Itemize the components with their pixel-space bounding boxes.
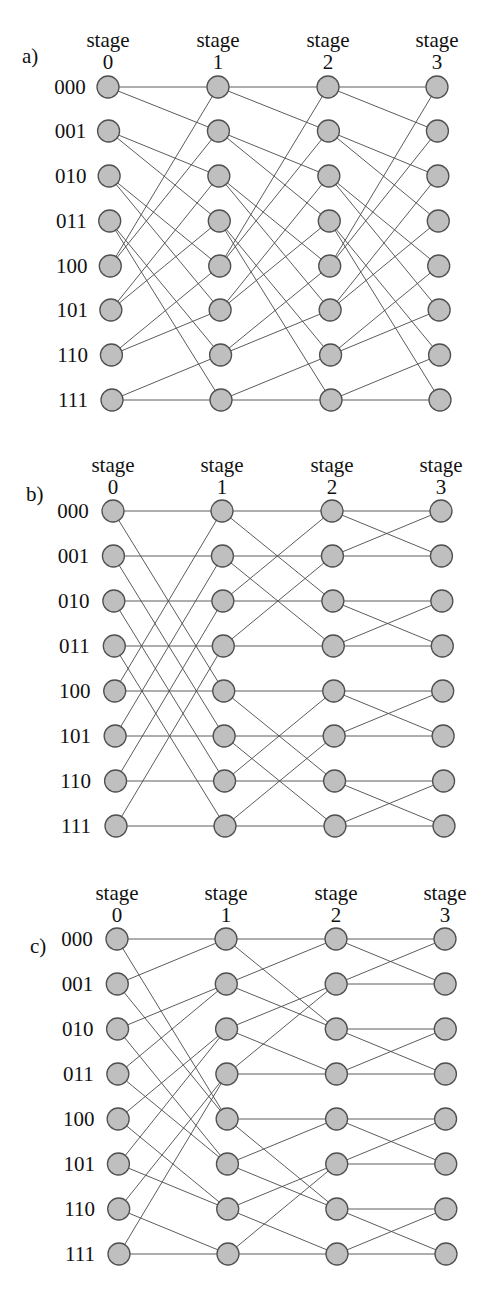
row-label: 101 xyxy=(56,298,88,322)
stage-header-number: 3 xyxy=(432,50,443,74)
switch-node-circle-icon xyxy=(326,1243,348,1265)
switch-node-circle-icon xyxy=(435,1198,457,1220)
switch-node-circle-icon xyxy=(105,815,127,837)
switch-node-circle-icon xyxy=(434,928,456,950)
stage-header-word: stage xyxy=(314,881,357,905)
edge-line xyxy=(227,1119,336,1164)
switch-node-circle-icon xyxy=(214,770,236,792)
switch-node-circle-icon xyxy=(435,1153,457,1175)
edge-line xyxy=(118,1164,227,1209)
stage-header-word: stage xyxy=(196,28,239,52)
stage-header-word: stage xyxy=(419,453,462,477)
switch-node-circle-icon xyxy=(104,725,126,747)
edge-line xyxy=(330,131,438,266)
row-label: 111 xyxy=(61,814,91,838)
switch-node-circle-icon xyxy=(104,680,126,702)
edges xyxy=(108,87,440,400)
row-label: 001 xyxy=(62,972,94,996)
edge-line xyxy=(226,939,336,1029)
switch-node-circle-icon xyxy=(428,255,450,277)
edge-line xyxy=(118,1029,226,1119)
switch-node-circle-icon xyxy=(318,210,340,232)
stage-header-word: stage xyxy=(415,28,458,52)
edge-line xyxy=(219,221,330,355)
stage-header-number: 2 xyxy=(327,475,338,499)
switch-node-circle-icon xyxy=(432,725,454,747)
row-label: 101 xyxy=(59,724,91,748)
edge-line xyxy=(119,1074,227,1209)
edge-line xyxy=(117,984,227,1119)
panel-b-butterfly-network: b)stage0stage1stage2stage300000101001110… xyxy=(26,453,463,838)
switch-node-circle-icon xyxy=(214,815,236,837)
switch-node-circle-icon xyxy=(213,680,235,702)
nodes xyxy=(106,928,457,1265)
edge-line xyxy=(118,984,227,1029)
switch-node-circle-icon xyxy=(108,1198,130,1220)
switch-node-circle-icon xyxy=(428,299,450,321)
switch-node-circle-icon xyxy=(429,389,451,411)
edge-line xyxy=(331,355,440,400)
switch-node-circle-icon xyxy=(100,299,122,321)
edge-line xyxy=(331,266,439,355)
switch-node-circle-icon xyxy=(326,1108,348,1130)
switch-node-circle-icon xyxy=(216,1108,238,1130)
edge-line xyxy=(227,1029,337,1074)
row-label: 111 xyxy=(65,1242,95,1266)
edge-line xyxy=(227,984,336,1074)
edge-line xyxy=(119,1074,227,1254)
switch-node-circle-icon xyxy=(434,1063,456,1085)
switch-node-circle-icon xyxy=(326,1153,348,1175)
switch-node-circle-icon xyxy=(209,299,231,321)
row-label: 110 xyxy=(64,1197,95,1221)
switch-node-circle-icon xyxy=(207,120,229,142)
switch-node-circle-icon xyxy=(320,344,342,366)
switch-node-circle-icon xyxy=(319,255,341,277)
row-label: 110 xyxy=(57,343,88,367)
stage-header-word: stage xyxy=(310,453,353,477)
switch-node-circle-icon xyxy=(210,344,232,366)
switch-node-circle-icon xyxy=(322,590,344,612)
switch-node-circle-icon xyxy=(427,210,449,232)
row-label: 110 xyxy=(60,769,91,793)
switch-node-circle-icon xyxy=(208,165,230,187)
edge-line xyxy=(330,87,437,266)
stage-header-number: 0 xyxy=(103,50,114,74)
edges xyxy=(117,939,446,1254)
switch-node-circle-icon xyxy=(319,299,341,321)
switch-node-circle-icon xyxy=(105,770,127,792)
stage-header-number: 1 xyxy=(213,50,224,74)
stage-header-word: stage xyxy=(86,28,129,52)
row-label: 000 xyxy=(54,75,86,99)
edge-line xyxy=(218,131,328,176)
edge-line xyxy=(218,87,328,131)
switch-node-circle-icon xyxy=(426,120,448,142)
switch-node-circle-icon xyxy=(107,1018,129,1040)
row-label: 000 xyxy=(61,927,93,951)
edge-line xyxy=(221,266,330,355)
switch-node-circle-icon xyxy=(325,973,347,995)
switch-node-circle-icon xyxy=(324,815,346,837)
edge-line xyxy=(111,310,220,355)
switch-node-circle-icon xyxy=(435,1243,457,1265)
edges xyxy=(113,511,444,826)
switch-node-circle-icon xyxy=(434,1018,456,1040)
switch-node-circle-icon xyxy=(108,1243,130,1265)
switch-node-circle-icon xyxy=(427,165,449,187)
edge-line xyxy=(110,221,221,355)
panel-label: c) xyxy=(30,934,46,958)
edge-line xyxy=(118,1029,226,1164)
edge-line xyxy=(111,221,219,310)
edge-line xyxy=(330,176,438,310)
stage-header-number: 2 xyxy=(331,903,342,927)
edge-line xyxy=(220,131,329,266)
switch-node-circle-icon xyxy=(215,928,237,950)
switch-node-circle-icon xyxy=(107,1108,129,1130)
switch-node-circle-icon xyxy=(99,255,121,277)
switch-node-circle-icon xyxy=(208,210,230,232)
switch-node-circle-icon xyxy=(106,973,128,995)
switch-node-circle-icon xyxy=(317,120,339,142)
switch-node-circle-icon xyxy=(209,255,231,277)
switch-node-circle-icon xyxy=(431,590,453,612)
switch-node-circle-icon xyxy=(325,1063,347,1085)
edge-line xyxy=(227,1119,337,1209)
